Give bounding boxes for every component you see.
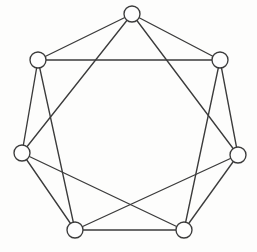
graph-edge [75,155,238,230]
graph-canvas [0,0,257,252]
edge-layer [22,14,238,230]
graph-vertex [14,145,30,161]
graph-vertex [230,147,246,163]
graph-edge [220,60,238,155]
graph-vertex [212,52,228,68]
graph-edge [22,60,38,153]
graph-edge [22,14,132,153]
graph-edge [132,14,220,60]
graph-edge [132,14,238,155]
graph-vertex [176,222,192,238]
graph-edge [38,14,132,60]
graph-vertex [30,52,46,68]
graph-edge [38,60,75,230]
graph-figure [0,0,257,252]
graph-vertex [67,222,83,238]
vertex-layer [14,6,246,238]
graph-vertex [124,6,140,22]
